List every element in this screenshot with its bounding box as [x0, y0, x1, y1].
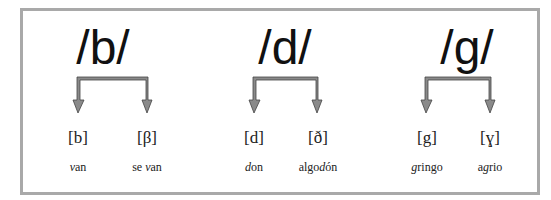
- allophone-symbol: [g]: [397, 128, 457, 148]
- plain-segment: rio: [489, 160, 502, 174]
- allophone-symbol: [b]: [48, 128, 108, 148]
- plain-segment: ón: [325, 160, 337, 174]
- plain-segment: an: [151, 160, 162, 174]
- plain-segment: on: [251, 160, 263, 174]
- allophone-symbol: [d]: [224, 128, 284, 148]
- phoneme-group-d: /d/ [d] [ð] don algodón: [205, 0, 365, 200]
- allophone-symbol: [ð]: [288, 128, 348, 148]
- allophone-symbol: [β]: [117, 128, 177, 148]
- example-word: algodón: [278, 160, 358, 175]
- example-word: agrio: [450, 160, 530, 175]
- plain-segment: se: [132, 160, 145, 174]
- allophone-symbol: [ɣ]: [460, 128, 520, 148]
- plain-segment: an: [75, 160, 86, 174]
- phoneme-group-g: /g/ [g] [ɣ] gringo agrio: [375, 0, 535, 200]
- plain-segment: ringo: [417, 160, 442, 174]
- phoneme-group-b: /b/ [b] [β] van se van: [23, 0, 183, 200]
- example-word: van: [38, 160, 118, 175]
- example-word: se van: [107, 160, 187, 175]
- plain-segment: algo: [299, 160, 320, 174]
